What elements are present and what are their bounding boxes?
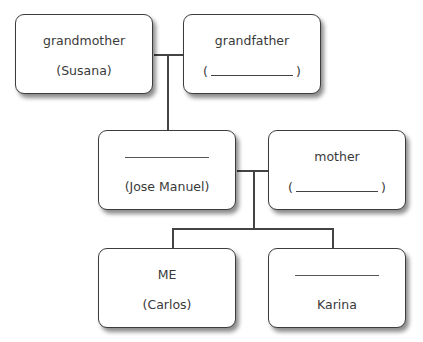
node-role: grandfather — [184, 33, 320, 48]
node-name-blank[interactable]: () — [269, 179, 405, 195]
fill-in-blank[interactable] — [296, 179, 378, 192]
node-name: Karina — [269, 297, 405, 312]
node-name: (Susana) — [16, 63, 152, 78]
descent-line-grandparents — [167, 54, 169, 130]
node-name-blank[interactable]: () — [184, 63, 320, 79]
child-line-sibling — [332, 228, 334, 248]
marriage-line-grandparents — [154, 54, 183, 56]
role-fill-in-blank[interactable] — [295, 275, 379, 276]
role-fill-in-blank[interactable] — [125, 157, 209, 158]
node-mother: mother () — [268, 130, 406, 210]
node-name: (Jose Manuel) — [99, 179, 235, 194]
node-role: mother — [269, 149, 405, 164]
node-me: ME (Carlos) — [98, 248, 236, 328]
node-grandmother: grandmother (Susana) — [15, 14, 153, 94]
child-line-me — [172, 228, 174, 248]
node-name: (Carlos) — [99, 297, 235, 312]
paren-open: ( — [288, 180, 293, 195]
node-sibling: Karina — [268, 248, 406, 328]
paren-close: ) — [381, 180, 386, 195]
paren-open: ( — [203, 64, 208, 79]
fill-in-blank[interactable] — [211, 63, 293, 76]
node-role: ME — [99, 267, 235, 282]
sibling-bar — [172, 228, 334, 230]
node-father: (Jose Manuel) — [98, 130, 236, 210]
descent-line-parents — [253, 170, 255, 228]
node-role: grandmother — [16, 33, 152, 48]
node-grandfather: grandfather () — [183, 14, 321, 94]
paren-close: ) — [296, 64, 301, 79]
